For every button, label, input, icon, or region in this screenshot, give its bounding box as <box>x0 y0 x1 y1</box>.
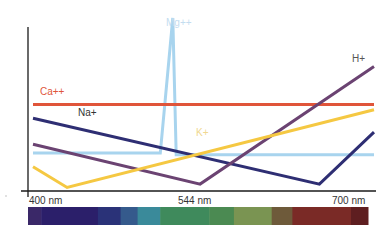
axis-origin-dot <box>5 195 7 197</box>
series-label: Ca++ <box>40 86 65 97</box>
spectrum-segment <box>272 207 293 225</box>
spectrum-segment <box>28 207 42 225</box>
spectrum-segment <box>98 207 121 225</box>
x-tick-label: 400 nm <box>29 195 62 206</box>
spectrum-segment <box>292 207 351 225</box>
spectrum-segment <box>209 207 234 225</box>
series-line-hplus <box>33 66 374 184</box>
series-label: Na+ <box>78 107 97 118</box>
series-label: H+ <box>352 53 365 64</box>
spectrum-segment <box>160 207 210 225</box>
visible-spectrum-bar <box>28 207 369 225</box>
series-labels: Mg++Ca++Na+H+K+ <box>40 17 365 138</box>
spectrum-segment <box>138 207 161 225</box>
ion-spectrum-chart: 400 nm544 nm700 nm Mg++Ca++Na+H+K+ <box>0 0 392 237</box>
x-tick-label: 700 nm <box>332 195 365 206</box>
x-tick-labels: 400 nm544 nm700 nm <box>29 195 365 206</box>
series-label: K+ <box>196 127 209 138</box>
series-lines <box>33 18 374 188</box>
spectrum-segment <box>41 207 98 225</box>
x-tick-label: 544 nm <box>178 195 211 206</box>
spectrum-segment <box>234 207 272 225</box>
series-line-kplus <box>33 110 374 188</box>
spectrum-segment <box>121 207 139 225</box>
series-label: Mg++ <box>166 17 192 28</box>
spectrum-segment <box>351 207 369 225</box>
